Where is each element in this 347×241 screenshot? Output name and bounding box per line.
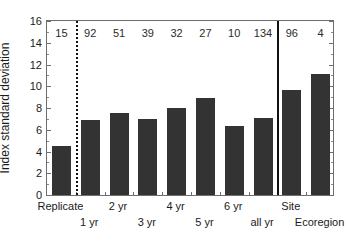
y-axis-tick-label: 12	[30, 59, 42, 70]
y-axis-minor-tick	[47, 32, 49, 33]
y-axis-tick-mark	[47, 173, 51, 174]
x-axis-category-label: all yr	[250, 216, 273, 228]
bar	[254, 118, 273, 195]
y-axis-minor-tick	[331, 141, 333, 142]
y-axis-minor-tick	[331, 184, 333, 185]
bar-count-label: 10	[228, 27, 240, 39]
bar-count-label: 51	[113, 27, 125, 39]
y-axis-minor-tick	[331, 75, 333, 76]
y-axis-minor-tick	[331, 54, 333, 55]
bar	[167, 108, 186, 195]
y-axis-minor-tick	[47, 75, 49, 76]
bar	[52, 146, 71, 195]
bar-count-label: 32	[170, 27, 182, 39]
y-axis-tick-mark	[47, 65, 51, 66]
plot-area: 024681012141615925139322710134964	[46, 20, 334, 196]
y-axis-minor-tick	[331, 97, 333, 98]
bar-count-label: 39	[142, 27, 154, 39]
separator-line-dotted	[76, 21, 78, 195]
x-axis-tick-mark	[105, 192, 106, 195]
y-axis-minor-tick	[331, 119, 333, 120]
bar-count-label: 15	[55, 27, 67, 39]
y-axis-minor-tick	[47, 97, 49, 98]
bar-count-label: 96	[286, 27, 298, 39]
y-axis-tick-label: 16	[30, 16, 42, 27]
x-axis-tick-mark	[306, 192, 307, 195]
separator-line-solid	[277, 21, 279, 195]
x-axis-category-label: Replicate	[37, 200, 83, 212]
y-axis-tick-label: 4	[36, 146, 42, 157]
y-axis-minor-tick	[331, 32, 333, 33]
y-axis-tick-mark	[47, 108, 51, 109]
x-axis-category-label: 4 yr	[166, 200, 184, 212]
x-axis-category-label: Ecoregion	[295, 216, 345, 228]
x-axis-category-label: Site	[281, 200, 300, 212]
y-axis-minor-tick	[47, 184, 49, 185]
bar	[225, 126, 244, 195]
bar-chart-figure: Index standard deviation 024681012141615…	[0, 0, 347, 241]
bar	[81, 120, 100, 195]
y-axis-minor-tick	[47, 119, 49, 120]
bar	[196, 98, 215, 195]
x-axis-category-label: 2 yr	[109, 200, 127, 212]
x-axis-tick-mark	[191, 192, 192, 195]
y-axis-tick-mark	[329, 21, 333, 22]
x-axis-category-label: 1 yr	[80, 216, 98, 228]
y-axis-tick-mark	[47, 21, 51, 22]
bar-count-label: 92	[84, 27, 96, 39]
x-axis-category-label: 3 yr	[138, 216, 156, 228]
y-axis-minor-tick	[47, 141, 49, 142]
y-axis-tick-mark	[329, 65, 333, 66]
x-axis-category-label: 6 yr	[224, 200, 242, 212]
x-axis-tick-mark	[162, 192, 163, 195]
bar-count-label: 4	[318, 27, 324, 39]
y-axis-title: Index standard deviation	[0, 20, 12, 196]
y-axis-tick-mark	[47, 43, 51, 44]
bar	[138, 119, 157, 195]
x-axis-tick-mark	[133, 192, 134, 195]
bar	[282, 90, 301, 195]
y-axis-tick-label: 14	[30, 37, 42, 48]
y-axis-tick-label: 2	[36, 168, 42, 179]
x-axis-category-label: 5 yr	[195, 216, 213, 228]
y-axis-minor-tick	[331, 162, 333, 163]
y-axis-tick-label: 0	[36, 190, 42, 201]
y-axis-tick-mark	[47, 195, 51, 196]
y-axis-tick-mark	[329, 195, 333, 196]
x-axis-tick-mark	[249, 192, 250, 195]
y-axis-tick-label: 6	[36, 124, 42, 135]
y-axis-tick-label: 8	[36, 103, 42, 114]
y-axis-tick-mark	[47, 130, 51, 131]
y-axis-tick-label: 10	[30, 81, 42, 92]
y-axis-minor-tick	[47, 54, 49, 55]
y-axis-minor-tick	[47, 162, 49, 163]
y-axis-tick-mark	[47, 86, 51, 87]
bar-count-label: 134	[254, 27, 272, 39]
y-axis-tick-mark	[329, 43, 333, 44]
bar	[311, 74, 330, 195]
bar-count-label: 27	[199, 27, 211, 39]
x-axis-tick-mark	[220, 192, 221, 195]
bar	[110, 113, 129, 195]
y-axis-tick-mark	[47, 152, 51, 153]
